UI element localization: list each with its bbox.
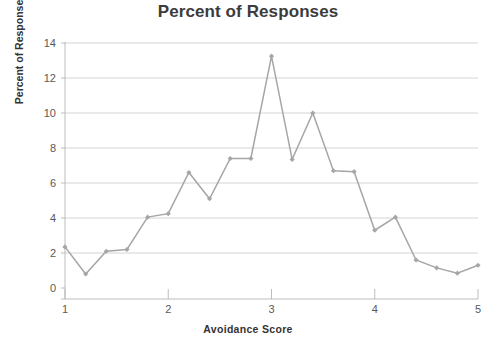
plot-area: 02468101214 12345	[0, 0, 496, 345]
y-axis-ticks: 02468101214	[44, 37, 65, 294]
x-tick-label: 2	[165, 303, 171, 315]
x-tick-label: 1	[62, 303, 68, 315]
data-point-marker	[248, 156, 253, 161]
y-tick-label: 12	[44, 72, 56, 84]
data-point-marker	[310, 110, 315, 115]
data-point-marker	[475, 263, 480, 268]
series-line-percent-of-responses	[65, 56, 478, 274]
x-axis-ticks: 12345	[62, 289, 481, 315]
data-point-marker	[269, 54, 274, 59]
y-tick-label: 10	[44, 107, 56, 119]
data-point-marker	[331, 168, 336, 173]
data-point-marker	[166, 211, 171, 216]
y-tick-label: 6	[50, 177, 56, 189]
chart-container: Percent of Responses Percent of Response…	[0, 0, 496, 345]
data-point-marker	[228, 156, 233, 161]
data-point-marker	[455, 271, 460, 276]
y-tick-label: 0	[50, 282, 56, 294]
y-tick-label: 4	[50, 212, 56, 224]
gridlines	[65, 43, 478, 253]
x-tick-label: 4	[372, 303, 378, 315]
data-point-marker	[290, 157, 295, 162]
data-point-marker	[413, 257, 418, 262]
y-tick-label: 14	[44, 37, 56, 49]
y-tick-label: 2	[50, 247, 56, 259]
data-point-marker	[434, 265, 439, 270]
x-tick-label: 5	[475, 303, 481, 315]
data-series-percent-of-responses	[62, 54, 480, 277]
data-point-marker	[352, 169, 357, 174]
y-tick-label: 8	[50, 142, 56, 154]
x-tick-label: 3	[268, 303, 274, 315]
